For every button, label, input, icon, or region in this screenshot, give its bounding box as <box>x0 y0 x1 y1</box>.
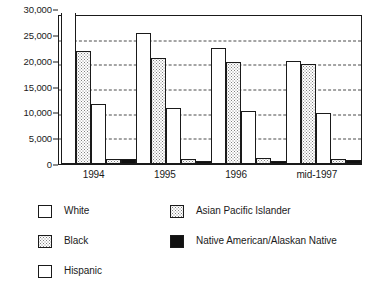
legend-entry: Asian Pacific Islander <box>170 196 375 226</box>
bar-asian-pacific-islander-1995 <box>181 159 196 164</box>
bar-group-1996 <box>211 16 286 164</box>
bar-hispanic-1995 <box>166 108 181 164</box>
bar-white-mid-1997 <box>286 61 301 164</box>
bar-native-american-alaskan-native-mid-1997 <box>346 160 361 164</box>
x-axis-tick-label: 1994 <box>83 168 105 184</box>
y-axis-tick-label: 0 <box>0 160 52 170</box>
dotted-swatch <box>38 235 52 248</box>
legend-label: Hispanic <box>64 265 102 277</box>
y-axis-tick-label: 30,000 <box>0 5 52 15</box>
legend-entry: Hispanic <box>38 256 178 286</box>
x-axis-tick-labels: 199419951996mid-1997 <box>58 168 362 184</box>
bar-group-1994 <box>61 16 136 164</box>
y-axis-tick-label: 5,000 <box>0 134 52 144</box>
bar-hispanic-1996 <box>241 111 256 164</box>
legend-column-right: Asian Pacific IslanderNative American/Al… <box>170 196 375 256</box>
x-axis-tick-label: 1995 <box>154 168 176 184</box>
y-axis-tick-labels: 05,00010,00015,00020,00025,00030,000 <box>0 10 52 165</box>
bar-native-american-alaskan-native-1996 <box>271 161 286 164</box>
x-axis-tick-label: mid-1997 <box>296 168 337 184</box>
legend-label: Native American/Alaskan Native <box>196 235 337 247</box>
bar-white-1996 <box>211 48 226 164</box>
bar-black-1995 <box>151 58 166 164</box>
bar-groups-container <box>59 16 361 164</box>
legend-column-left: WhiteBlackHispanic <box>38 196 178 286</box>
bar-chart-figure: 05,00010,00015,00020,00025,00030,000 199… <box>0 0 378 287</box>
bar-asian-pacific-islander-1994 <box>106 159 121 164</box>
bar-black-1994 <box>76 51 91 164</box>
bar-asian-pacific-islander-1996 <box>256 158 271 164</box>
y-axis-tick-mark <box>53 10 58 11</box>
white-swatch <box>38 205 52 218</box>
bar-hispanic-1994 <box>91 104 106 164</box>
x-axis-tick-label: 1996 <box>225 168 247 184</box>
bar-white-1994 <box>61 13 76 164</box>
legend-label: Asian Pacific Islander <box>196 205 291 217</box>
black-swatch <box>170 235 184 248</box>
white-swatch <box>38 265 52 278</box>
plot-axes-frame <box>58 15 362 165</box>
chart-legend: WhiteBlackHispanic Asian Pacific Islande… <box>0 196 378 287</box>
bar-group-mid-1997 <box>286 16 361 164</box>
bar-group-1995 <box>136 16 211 164</box>
bar-black-mid-1997 <box>301 64 316 164</box>
bar-white-1995 <box>136 33 151 164</box>
bar-native-american-alaskan-native-1995 <box>196 161 211 164</box>
legend-entry: White <box>38 196 178 226</box>
legend-label: White <box>64 205 89 217</box>
y-axis-tick-label: 20,000 <box>0 57 52 67</box>
y-axis-tick-label: 25,000 <box>0 31 52 41</box>
bar-black-1996 <box>226 62 241 164</box>
legend-entry: Black <box>38 226 178 256</box>
bar-native-american-alaskan-native-1994 <box>121 159 136 164</box>
bar-hispanic-mid-1997 <box>316 113 331 164</box>
bar-asian-pacific-islander-mid-1997 <box>331 159 346 164</box>
plot-area: 05,00010,00015,00020,00025,00030,000 199… <box>0 0 378 190</box>
legend-label: Black <box>64 235 88 247</box>
dotted-swatch <box>170 205 184 218</box>
y-axis-tick-label: 15,000 <box>0 83 52 93</box>
legend-entry: Native American/Alaskan Native <box>170 226 375 256</box>
y-axis-tick-label: 10,000 <box>0 108 52 118</box>
